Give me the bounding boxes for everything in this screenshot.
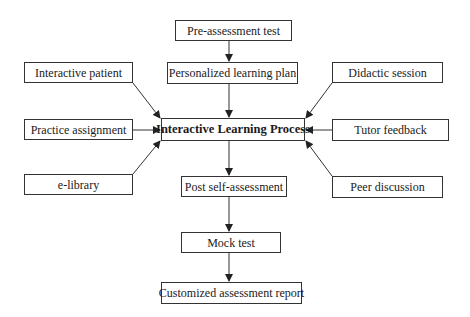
node-tutor-feedback: Tutor feedback xyxy=(332,119,449,141)
arrow-elibrary-to-center xyxy=(133,141,160,174)
arrow-peer-to-center xyxy=(306,141,332,176)
node-personalized-learning-plan: Personalized learning plan xyxy=(167,62,298,84)
node-didactic-session: Didactic session xyxy=(332,62,443,83)
diagram-canvas: Pre-assessment test Personalized learnin… xyxy=(0,0,470,317)
node-mock-test: Mock test xyxy=(181,232,281,253)
arrow-didactic-to-center xyxy=(306,83,332,118)
connectors-layer xyxy=(0,0,470,317)
node-e-library: e-library xyxy=(24,174,133,195)
node-customized-assessment-report: Customized assessment report xyxy=(161,282,302,304)
node-practice-assignment: Practice assignment xyxy=(24,119,133,140)
node-interactive-patient: Interactive patient xyxy=(24,62,133,83)
node-peer-discussion: Peer discussion xyxy=(332,176,443,198)
node-interactive-learning-process: Interactive Learning Process xyxy=(161,118,305,141)
arrow-patient-to-center xyxy=(133,83,160,118)
node-post-self-assessment: Post self-assessment xyxy=(181,176,287,197)
node-pre-assessment-test: Pre-assessment test xyxy=(175,20,292,41)
